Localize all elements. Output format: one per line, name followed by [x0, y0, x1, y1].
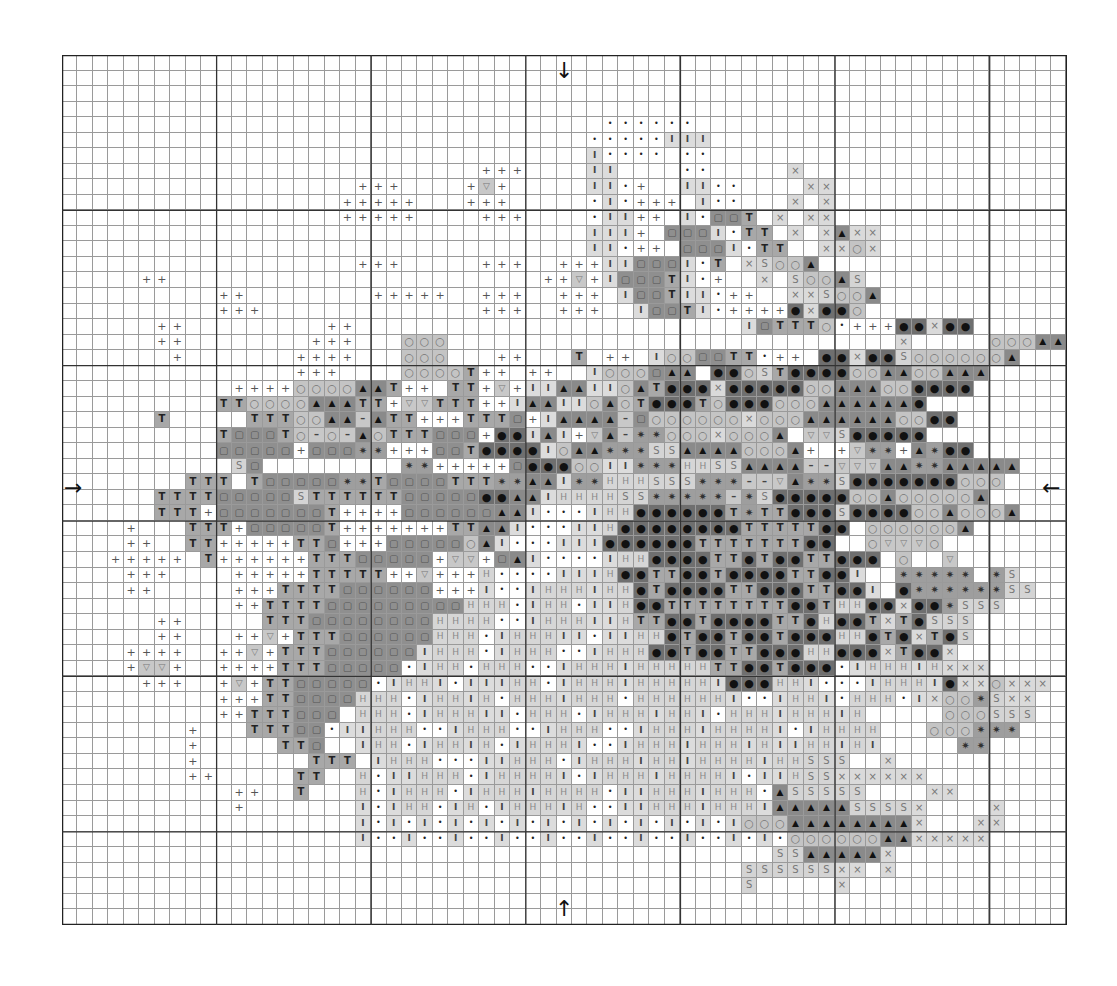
stitch-cell: H	[479, 723, 494, 739]
stitch-cell	[448, 863, 463, 879]
stitch-cell: T	[309, 536, 324, 552]
stitch-cell: ×	[804, 210, 819, 226]
stitch-cell	[247, 832, 262, 848]
stitch-cell	[278, 832, 293, 848]
stitch-cell	[912, 148, 927, 164]
stitch-cell: ▢	[402, 630, 417, 646]
stitch-cell: H	[448, 692, 463, 708]
stitch-cell: T	[896, 645, 911, 661]
stitch-cell	[77, 272, 92, 288]
stitch-cell	[927, 195, 942, 211]
stitch-cell: ●	[835, 366, 850, 382]
stitch-cell: ▲	[881, 459, 896, 475]
stitch-cell	[726, 894, 741, 910]
stitch-cell	[495, 71, 510, 87]
stitch-cell: T	[325, 490, 340, 506]
stitch-cell	[263, 102, 278, 118]
stitch-cell: ▢	[510, 412, 525, 428]
stitch-cell: H	[572, 676, 587, 692]
stitch-cell: ○	[943, 521, 958, 537]
stitch-cell	[696, 847, 711, 863]
stitch-cell	[294, 894, 309, 910]
stitch-cell	[557, 86, 572, 102]
stitch-cell	[680, 102, 695, 118]
stitch-cell	[247, 117, 262, 133]
stitch-cell	[1051, 692, 1066, 708]
stitch-cell	[1005, 769, 1020, 785]
stitch-cell	[634, 335, 649, 351]
stitch-cell	[139, 847, 154, 863]
stitch-cell: ○	[850, 288, 865, 304]
stitch-cell	[170, 474, 185, 490]
stitch-cell	[201, 568, 216, 584]
stitch-cell: ○	[927, 366, 942, 382]
stitch-cell: ○	[557, 443, 572, 459]
stitch-cell: +	[139, 272, 154, 288]
stitch-cell: ○	[402, 366, 417, 382]
stitch-cell: H	[726, 707, 741, 723]
stitch-cell: ○	[247, 397, 262, 413]
stitch-cell: +	[649, 195, 664, 211]
stitch-cell	[139, 521, 154, 537]
stitch-cell: +	[325, 319, 340, 335]
stitch-cell	[294, 226, 309, 242]
stitch-cell: T	[726, 661, 741, 677]
stitch-cell: I	[356, 832, 371, 848]
stitch-cell	[77, 86, 92, 102]
stitch-cell: ▲	[479, 536, 494, 552]
stitch-cell	[1020, 71, 1035, 87]
stitch-cell	[912, 878, 927, 894]
stitch-cell: •	[742, 832, 757, 848]
stitch-cell: ○	[896, 412, 911, 428]
stitch-cell	[819, 164, 834, 180]
stitch-cell	[1005, 102, 1020, 118]
stitch-cell	[696, 319, 711, 335]
stitch-cell	[958, 102, 973, 118]
stitch-cell	[927, 894, 942, 910]
stitch-cell: ●	[866, 630, 881, 646]
stitch-cell: •	[618, 179, 633, 195]
stitch-cell: +	[217, 707, 232, 723]
stitch-cell: ▽	[881, 536, 896, 552]
stitch-cell: +	[387, 195, 402, 211]
stitch-cell: I	[835, 738, 850, 754]
stitch-cell: T	[819, 599, 834, 615]
stitch-cell	[912, 257, 927, 273]
stitch-cell	[912, 723, 927, 739]
stitch-cell: ▢	[247, 505, 262, 521]
stitch-cell: I	[587, 832, 602, 848]
stitch-cell: I	[572, 397, 587, 413]
stitch-cell: ●	[742, 552, 757, 568]
stitch-cell: T	[263, 614, 278, 630]
stitch-cell	[294, 164, 309, 180]
stitch-cell: H	[402, 676, 417, 692]
stitch-cell: I	[526, 552, 541, 568]
stitch-cell: ▲	[587, 443, 602, 459]
stitch-cell: ●	[665, 381, 680, 397]
stitch-cell: ▲	[1005, 459, 1020, 475]
stitch-cell: ○	[696, 428, 711, 444]
stitch-cell	[201, 692, 216, 708]
stitch-cell	[93, 645, 108, 661]
stitch-cell: ▲	[788, 459, 803, 475]
stitch-cell: ○	[927, 505, 942, 521]
stitch-cell: S	[819, 288, 834, 304]
stitch-cell	[62, 505, 77, 521]
stitch-cell	[294, 86, 309, 102]
stitch-cell	[835, 335, 850, 351]
stitch-cell	[170, 179, 185, 195]
stitch-cell: +	[448, 568, 463, 584]
stitch-cell: ▽	[247, 645, 262, 661]
stitch-cell	[958, 272, 973, 288]
stitch-cell	[139, 86, 154, 102]
stitch-cell: H	[757, 707, 772, 723]
stitch-cell: S	[742, 863, 757, 879]
center-arrow-top-icon: ↓	[555, 60, 573, 82]
stitch-cell: +	[217, 304, 232, 320]
stitch-cell	[93, 894, 108, 910]
stitch-cell: ▲	[850, 847, 865, 863]
stitch-cell: I	[587, 226, 602, 242]
stitch-cell	[93, 164, 108, 180]
stitch-cell: •	[541, 568, 556, 584]
stitch-cell	[186, 117, 201, 133]
